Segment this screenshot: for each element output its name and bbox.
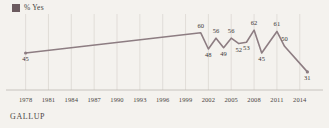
chart-legend: % Yes <box>12 3 44 12</box>
data-label-2004: 49 <box>220 50 227 57</box>
data-label-2007: 53 <box>243 44 250 51</box>
data-label-2006: 52 <box>235 46 242 53</box>
x-axis-tick-1981: 1981 <box>42 96 55 103</box>
x-axis-tick-1996: 1996 <box>156 96 169 103</box>
x-axis-tick-2005: 2005 <box>225 96 238 103</box>
data-label-2015: 31 <box>304 74 311 81</box>
x-axis-tick-2011: 2011 <box>270 96 283 103</box>
data-label-2005: 56 <box>228 27 235 34</box>
data-label-2009: 45 <box>258 55 265 62</box>
x-axis-tick-1987: 1987 <box>87 96 100 103</box>
data-label-2011: 61 <box>274 20 281 27</box>
data-label-2003: 56 <box>213 27 220 34</box>
data-label-2002: 48 <box>205 51 212 58</box>
x-axis-tick-2014: 2014 <box>293 96 306 103</box>
x-axis-tick-1999: 1999 <box>179 96 192 103</box>
x-axis-tick-1984: 1984 <box>65 96 78 103</box>
source-attribution: GALLUP <box>10 112 45 121</box>
legend-color-swatch <box>12 4 20 12</box>
legend-label: % Yes <box>24 3 44 12</box>
x-axis-tick-1978: 1978 <box>19 96 32 103</box>
data-label-2012: 50 <box>281 35 288 42</box>
x-axis-tick-1993: 1993 <box>133 96 146 103</box>
x-axis-tick-2002: 2002 <box>202 96 215 103</box>
data-label-2001: 60 <box>197 22 204 29</box>
chart-container: % Yes 1978198119841987199019931996199920… <box>0 0 329 128</box>
x-axis-tick-labels: 1978198119841987199019931996199920022005… <box>0 96 329 110</box>
x-axis-tick-1990: 1990 <box>110 96 123 103</box>
series-line <box>26 30 308 72</box>
data-label-2008: 62 <box>251 19 258 26</box>
x-axis-tick-2008: 2008 <box>247 96 260 103</box>
data-label-1978: 45 <box>22 55 29 62</box>
